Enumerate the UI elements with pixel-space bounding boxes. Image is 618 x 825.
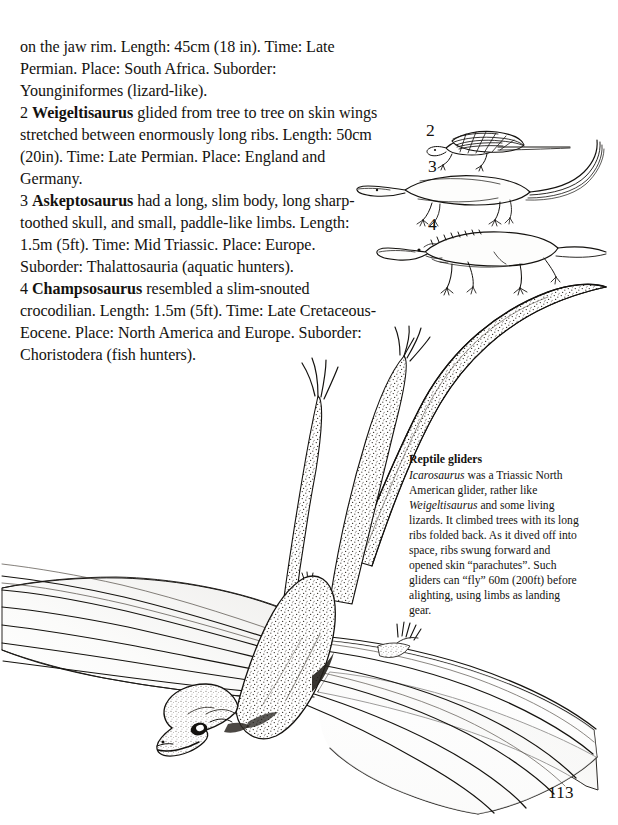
entry-number-3: 3 [20,192,28,209]
body-text: on the jaw rim. Length: 45cm (18 in). Ti… [20,36,380,366]
entry-text-1: on the jaw rim. Length: 45cm (18 in). Ti… [20,38,335,99]
entry-number-2: 2 [20,104,28,121]
figure-label-3: 3 [428,156,437,177]
figure-label-2: 2 [426,120,435,141]
entry-genus-3: Askeptosaurus [32,192,133,209]
caption-text-b: and some living lizards. It climbed tree… [409,499,579,618]
figure-label-4: 4 [428,214,437,235]
entry-paragraph-4: 4 Champsosaurus resembled a slim-snouted… [20,278,380,366]
entry-genus-4: Champsosaurus [32,280,142,297]
caption-heading: Reptile gliders [409,452,581,467]
book-page: 2 3 4 on the jaw rim. Length: 45cm (18 i… [0,0,618,825]
caption-genus-weigeltisaurus: Weigeltisaurus [409,499,478,512]
reptile-gliders-caption: Reptile gliders Icarosaurus was a Triass… [409,452,581,619]
entry-genus-2: Weigeltisaurus [32,104,133,121]
entry-paragraph-1: on the jaw rim. Length: 45cm (18 in). Ti… [20,36,380,102]
caption-genus-icarosaurus: Icarosaurus [409,469,465,482]
caption-body: Icarosaurus was a Triassic North America… [409,468,581,619]
page-number: 113 [548,783,574,803]
entry-number-4: 4 [20,280,28,297]
entry-paragraph-3: 3 Askeptosaurus had a long, slim body, l… [20,190,380,278]
entry-paragraph-2: 2 Weigeltisaurus glided from tree to tre… [20,102,380,190]
